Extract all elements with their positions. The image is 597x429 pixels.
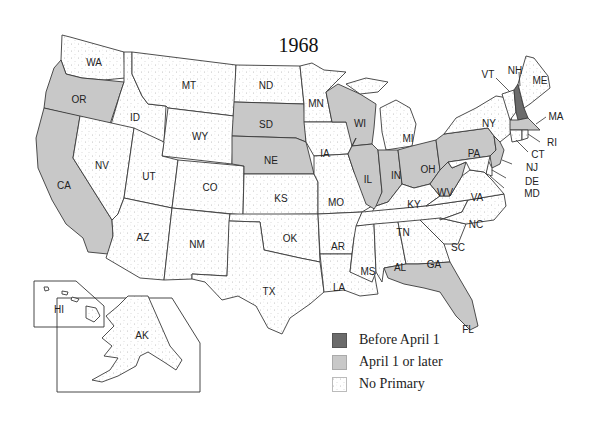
label-in: IN (391, 170, 401, 181)
label-ms: MS (361, 266, 376, 277)
label-fl: FL (462, 324, 474, 335)
label-wi: WI (354, 118, 366, 129)
label-ri: RI (547, 137, 557, 148)
legend-item-before-april-1: Before April 1 (332, 329, 443, 351)
legend-label: April 1 or later (359, 354, 443, 370)
label-mi: MI (402, 133, 413, 144)
label-mn: MN (308, 98, 324, 109)
legend-swatch-light (332, 355, 347, 370)
label-ut: UT (142, 171, 155, 182)
legend-item-no-primary: No Primary (332, 373, 443, 395)
label-il: IL (364, 174, 373, 185)
label-me: ME (533, 75, 548, 86)
label-vt: VT (482, 69, 495, 80)
label-oh: OH (421, 164, 436, 175)
label-ks: KS (274, 193, 288, 204)
label-ar: AR (331, 241, 345, 252)
label-id: ID (130, 112, 140, 123)
label-wv: WV (437, 187, 453, 198)
label-wy: WY (192, 131, 208, 142)
label-tn: TN (396, 227, 409, 238)
legend-label: No Primary (359, 376, 425, 392)
state-RI (522, 130, 528, 140)
label-al: AL (394, 262, 407, 273)
label-va: VA (471, 192, 484, 203)
label-ia: IA (320, 148, 330, 159)
label-sd: SD (259, 119, 273, 130)
label-tx: TX (263, 286, 276, 297)
label-wa: WA (86, 57, 102, 68)
label-nv: NV (95, 160, 109, 171)
label-nc: NC (469, 219, 483, 230)
label-ca: CA (57, 180, 71, 191)
label-ct: CT (531, 149, 544, 160)
label-co: CO (203, 182, 218, 193)
label-sc: SC (451, 242, 465, 253)
state-MA (510, 118, 540, 130)
label-md: MD (524, 188, 540, 199)
label-or: OR (72, 94, 87, 105)
label-nh: NH (508, 65, 522, 76)
label-ga: GA (427, 259, 442, 270)
label-la: LA (333, 282, 346, 293)
label-de: DE (525, 176, 539, 187)
label-az: AZ (137, 232, 150, 243)
legend-item-april-1-or-later: April 1 or later (332, 351, 443, 373)
legend-swatch-dotted (332, 377, 347, 392)
label-ne: NE (264, 155, 278, 166)
us-primary-map: WA OR CA ID NV MT WY UT CO AZ NM ND SD N… (0, 0, 597, 429)
label-hi: HI (54, 304, 64, 315)
map-title: 1968 (0, 34, 597, 57)
label-ma: MA (549, 111, 564, 122)
label-mt: MT (182, 80, 196, 91)
label-nj: NJ (526, 162, 538, 173)
label-pa: PA (468, 148, 481, 159)
legend-swatch-dark (332, 333, 347, 348)
legend: Before April 1 April 1 or later No Prima… (332, 329, 443, 395)
label-ak: AK (135, 330, 149, 341)
label-nm: NM (189, 239, 205, 250)
state-HI (44, 287, 100, 322)
label-ok: OK (283, 233, 298, 244)
label-nd: ND (259, 80, 273, 91)
label-ny: NY (482, 118, 496, 129)
label-ky: KY (407, 199, 421, 210)
legend-label: Before April 1 (359, 332, 440, 348)
label-mo: MO (328, 197, 344, 208)
